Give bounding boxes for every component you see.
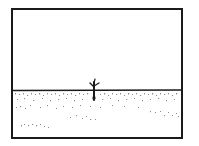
ground-stipple [15,93,179,128]
horizon-line [12,90,182,91]
landscape-drawing [0,0,199,146]
